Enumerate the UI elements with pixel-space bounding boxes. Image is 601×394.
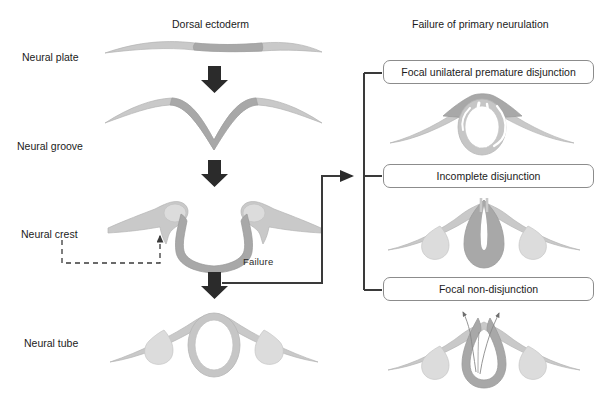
process-arrow-2: [201, 160, 228, 187]
stage-neural-crest-illustration: [108, 202, 321, 277]
process-arrow-3: [201, 272, 228, 299]
failure-branch-label: Failure: [243, 256, 273, 267]
panel-label-focal-non-disjunction[interactable]: Focal non-disjunction: [383, 277, 594, 301]
panel-incomplete-disjunction-illustration: [388, 198, 580, 268]
stage-label-neural-groove: Neural groove: [17, 141, 83, 153]
panel-label-incomplete-disjunction[interactable]: Incomplete disjunction: [383, 164, 594, 188]
panel-focal-non-disjunction-illustration: [388, 312, 580, 388]
process-arrow-1: [201, 66, 228, 93]
stage-neural-groove-illustration: [105, 98, 322, 150]
figure-canvas: Dorsal ectoderm Neural plate Neural groo…: [0, 0, 601, 394]
dorsal-ectoderm-heading: Dorsal ectoderm: [172, 19, 249, 31]
panel-label-focal-unilateral-premature-disjunction[interactable]: Focal unilateral premature disjunction: [383, 60, 594, 84]
stage-label-neural-tube: Neural tube: [24, 338, 78, 350]
stage-label-neural-crest: Neural crest: [21, 229, 78, 241]
stage-label-neural-plate: Neural plate: [22, 52, 79, 64]
stage-neural-tube-illustration: [110, 313, 318, 377]
failure-of-primary-neurulation-heading: Failure of primary neurulation: [412, 19, 549, 31]
panel-focal-unilateral-premature-disjunction-illustration: [390, 94, 574, 155]
stage-neural-plate-illustration: [105, 42, 322, 53]
